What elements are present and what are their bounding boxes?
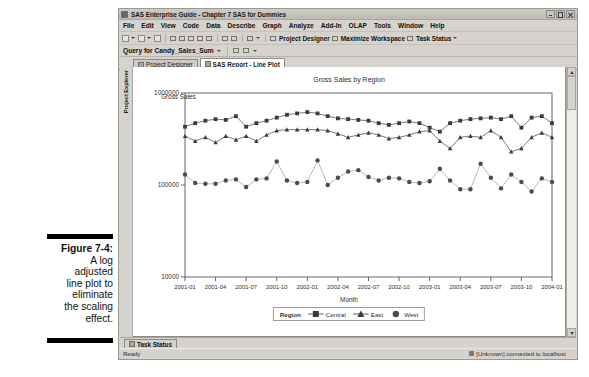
project-explorer-panel[interactable]: Project Explorer bbox=[120, 67, 133, 337]
toolbar-separator-4 bbox=[265, 34, 266, 42]
x-axis-label: Month bbox=[133, 296, 565, 303]
undo-icon[interactable] bbox=[222, 35, 229, 42]
menu-item-olap[interactable]: OLAP bbox=[349, 22, 367, 29]
line-plot-chart: Gross Sales by Region Gross Sales 100001… bbox=[133, 67, 565, 336]
project-explorer-label: Project Explorer bbox=[123, 70, 129, 113]
open-dropdown-caret-icon[interactable] bbox=[147, 37, 151, 39]
legend-marker-square-icon bbox=[308, 310, 324, 318]
close-button[interactable] bbox=[566, 10, 575, 18]
query-selector-label[interactable]: Query for Candy_Sales_Sum bbox=[123, 47, 214, 54]
main-toolbar: Project Designer Maximize Workspace Task… bbox=[119, 32, 577, 45]
maximize-workspace-icon bbox=[332, 35, 339, 42]
scrollbar-track[interactable] bbox=[567, 110, 576, 328]
figure-caption-line-1: adjusted bbox=[10, 266, 113, 278]
chart-legend: Region Central East bbox=[273, 307, 425, 321]
legend-entry-central: Central bbox=[308, 310, 346, 318]
toolbar-separator-2 bbox=[217, 34, 218, 42]
legend-label-west: West bbox=[404, 311, 418, 318]
sas-app-icon bbox=[121, 11, 128, 18]
toolbar-overflow-caret-icon[interactable] bbox=[453, 37, 457, 39]
figure-caption-line-0: A log bbox=[10, 255, 113, 267]
caption-rule-top bbox=[47, 234, 113, 239]
scroll-down-button[interactable] bbox=[567, 328, 576, 337]
delete-icon[interactable] bbox=[206, 35, 213, 42]
bottom-tab-task-status[interactable]: Task Status bbox=[124, 339, 177, 349]
caption-rule-bottom bbox=[47, 338, 113, 343]
svg-text:2003-04: 2003-04 bbox=[449, 284, 471, 290]
run-icon[interactable] bbox=[233, 47, 240, 54]
menu-item-tools[interactable]: Tools bbox=[374, 22, 391, 29]
project-designer-label: Project Designer bbox=[279, 35, 330, 42]
redo-icon[interactable] bbox=[231, 35, 238, 42]
vertical-scrollbar[interactable] bbox=[566, 67, 576, 337]
scroll-up-button[interactable] bbox=[567, 67, 576, 76]
project-designer-button[interactable]: Project Designer bbox=[270, 35, 330, 42]
svg-text:2002-10: 2002-10 bbox=[388, 284, 410, 290]
search-dropdown-caret-icon[interactable] bbox=[256, 37, 260, 39]
legend-marker-circle-icon bbox=[390, 310, 402, 318]
menu-item-addin[interactable]: Add-In bbox=[321, 22, 342, 29]
svg-text:2004-01: 2004-01 bbox=[541, 284, 563, 290]
maximize-workspace-button[interactable]: Maximize Workspace bbox=[332, 35, 405, 42]
window-controls bbox=[546, 10, 575, 18]
query-dropdown-caret-icon[interactable] bbox=[217, 50, 221, 52]
maximize-workspace-label: Maximize Workspace bbox=[341, 35, 405, 42]
figure-label: Figure 7-4: bbox=[10, 243, 113, 255]
toolbar-separator bbox=[165, 34, 166, 42]
task-status-tab-icon bbox=[129, 341, 135, 347]
legend-label-central: Central bbox=[326, 311, 346, 318]
legend-entry-east: East bbox=[353, 310, 383, 318]
window-title: SAS Enterprise Guide - Chapter 7 SAS for… bbox=[131, 11, 286, 18]
figure-caption-line-4: the scaling bbox=[10, 301, 113, 313]
menu-item-graph[interactable]: Graph bbox=[262, 22, 281, 29]
copy-icon[interactable] bbox=[188, 35, 195, 42]
cut-icon[interactable] bbox=[179, 35, 186, 42]
menu-item-describe[interactable]: Describe bbox=[228, 22, 256, 29]
report-canvas: Gross Sales by Region Gross Sales 100001… bbox=[133, 67, 566, 337]
menu-item-edit[interactable]: Edit bbox=[141, 22, 153, 29]
bottom-tab-task-status-label: Task Status bbox=[137, 341, 172, 348]
menu-item-code[interactable]: Code bbox=[183, 22, 199, 29]
query-overflow-caret-icon[interactable] bbox=[253, 50, 257, 52]
task-status-icon bbox=[407, 35, 414, 42]
status-connection-label: [Unknown] connected to localhost bbox=[476, 351, 566, 357]
svg-text:2002-07: 2002-07 bbox=[358, 284, 380, 290]
new-dropdown-caret-icon[interactable] bbox=[131, 37, 135, 39]
svg-text:100000: 100000 bbox=[158, 181, 180, 188]
open-icon[interactable] bbox=[138, 35, 145, 42]
menu-item-analyze[interactable]: Analyze bbox=[289, 22, 314, 29]
new-icon[interactable] bbox=[122, 35, 129, 42]
svg-text:2001-01: 2001-01 bbox=[174, 284, 196, 290]
svg-text:2003-10: 2003-10 bbox=[511, 284, 533, 290]
save-icon[interactable] bbox=[154, 35, 161, 42]
search-icon[interactable] bbox=[247, 35, 254, 42]
menu-item-view[interactable]: View bbox=[161, 22, 176, 29]
svg-text:2002-04: 2002-04 bbox=[327, 284, 349, 290]
menu-item-window[interactable]: Window bbox=[398, 22, 423, 29]
task-status-label: Task Status bbox=[416, 35, 451, 42]
scrollbar-thumb[interactable] bbox=[567, 76, 576, 110]
status-message: Ready bbox=[120, 351, 140, 357]
application-window: SAS Enterprise Guide - Chapter 7 SAS for… bbox=[118, 8, 578, 360]
svg-text:2003-01: 2003-01 bbox=[419, 284, 441, 290]
menu-item-help[interactable]: Help bbox=[430, 22, 444, 29]
y-axis-label: Gross Sales bbox=[161, 93, 196, 100]
paste-icon[interactable] bbox=[197, 35, 204, 42]
query-separator bbox=[227, 47, 228, 55]
figure-caption-line-5: effect. bbox=[10, 313, 113, 325]
print-icon[interactable] bbox=[170, 35, 177, 42]
menu-bar: File Edit View Code Data Describe Graph … bbox=[119, 20, 577, 32]
plot-svg: 1000010000010000002001-012001-042001-072… bbox=[133, 67, 566, 329]
chart-title: Gross Sales by Region bbox=[133, 76, 565, 83]
maximize-button[interactable] bbox=[556, 10, 565, 18]
connection-icon bbox=[469, 351, 474, 356]
task-status-button[interactable]: Task Status bbox=[407, 35, 451, 42]
menu-item-file[interactable]: File bbox=[123, 22, 134, 29]
title-bar[interactable]: SAS Enterprise Guide - Chapter 7 SAS for… bbox=[119, 9, 577, 20]
query-toolbar: Query for Candy_Sales_Sum bbox=[119, 45, 577, 57]
stop-icon[interactable] bbox=[243, 47, 250, 54]
minimize-button[interactable] bbox=[546, 10, 555, 18]
menu-item-data[interactable]: Data bbox=[206, 22, 220, 29]
svg-text:2001-10: 2001-10 bbox=[266, 284, 288, 290]
svg-text:2003-07: 2003-07 bbox=[480, 284, 502, 290]
